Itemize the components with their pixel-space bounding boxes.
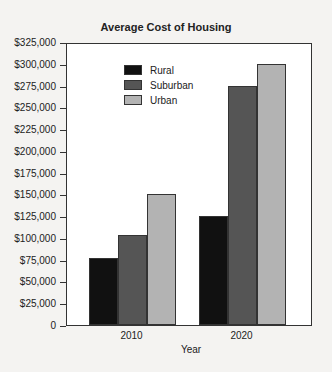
bar-urban-2010	[147, 194, 176, 325]
legend-swatch	[124, 80, 142, 90]
y-tick-label: $300,000	[0, 59, 64, 71]
bar-urban-2020	[257, 64, 286, 325]
y-tick-label: $275,000	[0, 81, 64, 93]
x-axis-title: Year	[0, 344, 332, 355]
y-tick-label: $225,000	[0, 124, 64, 136]
y-tick-label: $25,000	[0, 298, 64, 310]
legend-item: Rural	[124, 63, 193, 77]
y-tick-label: $75,000	[0, 255, 64, 267]
legend-item: Suburban	[124, 78, 193, 92]
legend-label: Urban	[150, 95, 177, 106]
bar-suburban-2010	[118, 235, 147, 325]
legend: RuralSuburbanUrban	[124, 63, 193, 108]
x-tick-label: 2020	[212, 330, 272, 341]
bar-suburban-2020	[228, 86, 257, 325]
y-tick-label: 0	[0, 320, 64, 332]
y-tick-label: $250,000	[0, 102, 64, 114]
y-tick-label: $100,000	[0, 233, 64, 245]
y-tick-label: $50,000	[0, 276, 64, 288]
y-tick-label: $175,000	[0, 168, 64, 180]
legend-swatch	[124, 95, 142, 105]
legend-label: Suburban	[150, 80, 193, 91]
y-tick-label: $325,000	[0, 37, 64, 49]
bar-rural-2020	[199, 216, 228, 325]
legend-swatch	[124, 65, 142, 75]
legend-item: Urban	[124, 93, 193, 107]
y-tick-label: $125,000	[0, 211, 64, 223]
legend-label: Rural	[150, 65, 174, 76]
bar-rural-2010	[89, 258, 118, 325]
y-tick-label: $150,000	[0, 189, 64, 201]
chart-title: Average Cost of Housing	[0, 21, 332, 33]
y-tick-label: $200,000	[0, 146, 64, 158]
x-tick-label: 2010	[102, 330, 162, 341]
